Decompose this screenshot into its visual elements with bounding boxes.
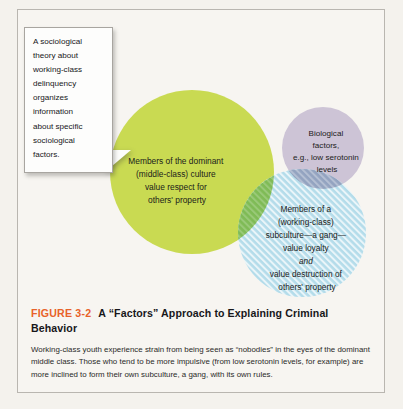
figure-body-text: Working-class youth experience strain fr…: [31, 344, 375, 381]
figure-caption: FIGURE 3-2A “Factors” Approach to Explai…: [31, 306, 373, 335]
figure-number: FIGURE 3-2: [31, 307, 91, 319]
callout-text: A sociological theory about working-clas…: [33, 35, 106, 162]
callout-box: A sociological theory about working-clas…: [24, 27, 113, 173]
figure-page: Members of the dominant (middle-class) c…: [0, 0, 403, 409]
